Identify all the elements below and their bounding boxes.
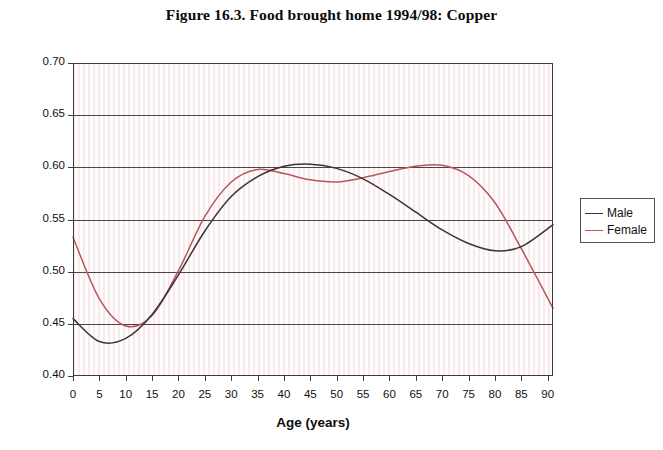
y-tick-label: 0.65 xyxy=(23,107,65,119)
x-tick-mark xyxy=(495,376,496,381)
y-tick-label: 0.55 xyxy=(23,212,65,224)
x-tick-label: 90 xyxy=(533,388,563,400)
x-tick-mark xyxy=(258,376,259,381)
chart-title: Figure 16.3. Food brought home 1994/98: … xyxy=(0,6,663,24)
legend-label: Female xyxy=(607,224,647,236)
x-tick-mark xyxy=(469,376,470,381)
y-tick-label: 0.70 xyxy=(23,55,65,67)
y-tick-mark xyxy=(68,63,74,64)
y-tick-label: 0.50 xyxy=(23,264,65,276)
x-tick-mark xyxy=(310,376,311,381)
x-tick-mark xyxy=(363,376,364,381)
x-tick-mark xyxy=(152,376,153,381)
y-tick-label: 0.40 xyxy=(23,368,65,380)
series-line-female xyxy=(73,165,553,327)
legend-swatch-icon xyxy=(585,213,603,214)
x-tick-mark xyxy=(389,376,390,381)
series-line-male xyxy=(73,164,553,343)
x-tick-mark xyxy=(521,376,522,381)
legend-label: Male xyxy=(607,207,633,219)
x-tick-mark xyxy=(416,376,417,381)
y-tick-label: 0.60 xyxy=(23,159,65,171)
legend-entry-female[interactable]: Female xyxy=(585,222,647,238)
y-tick-mark xyxy=(68,115,74,116)
plot-area xyxy=(73,63,553,376)
x-axis-title: Age (years) xyxy=(73,415,553,430)
y-tick-label: 0.45 xyxy=(23,316,65,328)
x-tick-mark xyxy=(178,376,179,381)
x-tick-mark xyxy=(548,376,549,381)
x-tick-mark xyxy=(126,376,127,381)
legend: MaleFemale xyxy=(580,198,655,243)
x-tick-mark xyxy=(73,376,74,381)
y-tick-mark xyxy=(68,220,74,221)
x-tick-mark xyxy=(337,376,338,381)
legend-entry-male[interactable]: Male xyxy=(585,205,633,221)
y-tick-mark xyxy=(68,167,74,168)
x-tick-mark xyxy=(284,376,285,381)
legend-swatch-icon xyxy=(585,230,603,231)
x-tick-mark xyxy=(231,376,232,381)
figure-container: Figure 16.3. Food brought home 1994/98: … xyxy=(0,0,663,450)
x-tick-mark xyxy=(442,376,443,381)
x-tick-mark xyxy=(205,376,206,381)
y-tick-mark xyxy=(68,324,74,325)
x-tick-mark xyxy=(99,376,100,381)
y-tick-mark xyxy=(68,272,74,273)
series-group xyxy=(73,63,553,376)
